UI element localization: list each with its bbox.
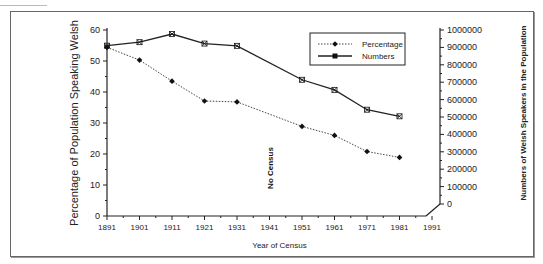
y2-tick-label: 0 (447, 199, 452, 209)
y2-tick-label: 300000 (447, 147, 477, 157)
percentage-marker (234, 99, 240, 105)
y-tick-label: 40 (90, 87, 100, 97)
y2-tick-label: 500000 (447, 112, 477, 122)
y-tick-label: 30 (90, 118, 100, 128)
y2-tick-label: 200000 (447, 164, 477, 174)
percentage-marker (332, 133, 338, 139)
y2-tick-label: 700000 (447, 77, 477, 87)
x-tick-label: 1901 (131, 223, 149, 232)
y-tick-label: 20 (90, 149, 100, 159)
x-tick-label: 1911 (163, 223, 181, 232)
y2-axis-label: Numbers of Welsh Speakers in the Populat… (519, 25, 528, 200)
y-tick-label: 10 (90, 180, 100, 190)
x-tick-label: 1931 (228, 223, 246, 232)
y2-tick-label: 900000 (447, 42, 477, 52)
x-tick-label: 1921 (196, 223, 214, 232)
x-tick-label: 1981 (391, 223, 409, 232)
y-tick-label: 60 (90, 25, 100, 35)
x-tick-label: 1971 (358, 223, 376, 232)
x-tick-label: 1961 (326, 223, 344, 232)
percentage-marker (299, 124, 305, 130)
x-tick-label: 1991 (423, 223, 441, 232)
y2-tick-label: 100000 (447, 182, 477, 192)
y2-tick-label: 1000000 (447, 25, 482, 35)
percentage-marker (364, 149, 370, 155)
y-tick-label: 50 (90, 56, 100, 66)
percentage-marker (202, 98, 208, 104)
y-axis-label: Percentage of Population Speaking Welsh (68, 20, 80, 226)
legend-percentage-label: Percentage (362, 40, 403, 49)
percentage-marker (137, 57, 143, 63)
axis-break-connector (426, 204, 440, 216)
x-tick-label: 1891 (98, 223, 116, 232)
y2-tick-label: 400000 (447, 129, 477, 139)
legend-numbers-label: Numbers (362, 52, 394, 61)
percentage-marker (397, 155, 403, 161)
y2-tick-label: 800000 (447, 60, 477, 70)
line-chart: 0102030405060010000020000030000040000050… (0, 0, 543, 264)
x-tick-label: 1951 (293, 223, 311, 232)
y2-tick-label: 600000 (447, 95, 477, 105)
legend-numbers-marker (333, 54, 338, 59)
y-tick-label: 0 (95, 211, 100, 221)
x-axis-label: Year of Census (252, 241, 306, 250)
x-tick-label: 1941 (261, 223, 279, 232)
percentage-marker (169, 78, 175, 84)
no-census-annotation: No Census (266, 147, 275, 189)
